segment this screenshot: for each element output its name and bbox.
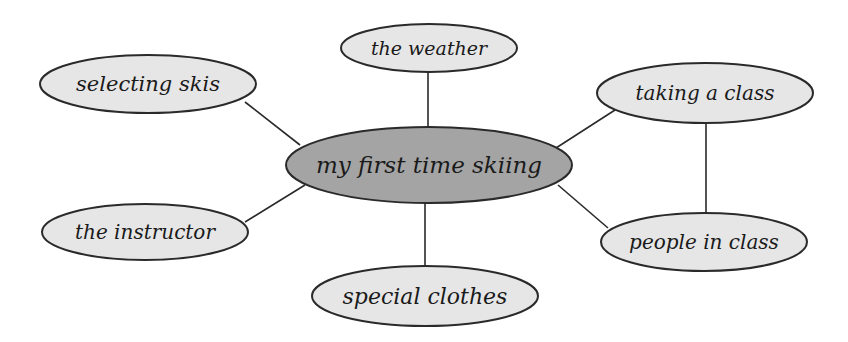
node-people-in-class: people in class (601, 213, 807, 271)
edge-center-instructor (245, 185, 305, 222)
node-label: taking a class (636, 81, 775, 105)
edge-center-class (556, 110, 615, 148)
node-special-clothes: special clothes (312, 266, 538, 326)
edge-center-people (558, 185, 608, 228)
node-taking-a-class: taking a class (597, 63, 813, 123)
node-label: people in class (629, 230, 779, 254)
node-label: special clothes (343, 284, 508, 309)
edge-center-skis (245, 102, 300, 145)
center-label: my first time skiing (316, 152, 542, 178)
node-label: selecting skis (76, 72, 220, 96)
node-the-weather: the weather (341, 24, 517, 72)
node-label: the weather (371, 37, 489, 59)
node-center-topic: my first time skiing (286, 127, 572, 203)
node-label: the instructor (75, 220, 216, 244)
node-selecting-skis: selecting skis (40, 55, 256, 113)
mind-map-diagram: the weather selecting skis taking a clas… (0, 0, 848, 342)
node-the-instructor: the instructor (42, 204, 248, 260)
